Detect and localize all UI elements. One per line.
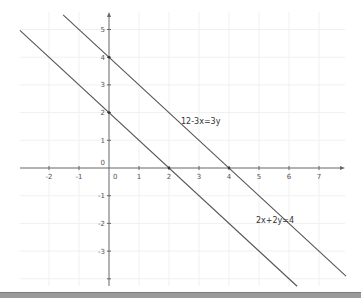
y-tick-label: 5 <box>101 26 105 34</box>
grid <box>20 12 345 286</box>
bottom-scrollbar <box>0 292 361 298</box>
y-tick-label: -3 <box>98 248 105 256</box>
x-tick-label: 0 <box>113 173 117 181</box>
x-tick-label: 6 <box>287 173 292 181</box>
graph-plot: -2-101234567543210-1-2-3 2x+2y=412-3x=3y <box>0 0 361 293</box>
y-tick-label: -2 <box>98 220 105 228</box>
x-tick-label: 1 <box>137 173 141 181</box>
y-tick-label: 3 <box>101 81 105 89</box>
series-label-1: 2x+2y=4 <box>256 216 294 225</box>
intercept-point <box>108 111 111 114</box>
x-axis-arrow-icon <box>340 166 345 170</box>
tick-marks: -2-101234567543210-1-2-3 <box>46 26 322 279</box>
y-tick-label: -1 <box>98 192 105 200</box>
labels: 2x+2y=412-3x=3y <box>181 117 294 226</box>
x-tick-label: 5 <box>257 173 261 181</box>
y-axis-arrow-icon <box>107 12 111 17</box>
y-tick-label: 0 <box>101 159 105 167</box>
intercept-point <box>168 167 171 170</box>
y-tick-label: 4 <box>101 54 106 62</box>
axes <box>20 12 345 286</box>
series-label-2: 12-3x=3y <box>181 117 221 126</box>
y-tick-label: 2 <box>101 109 105 117</box>
x-tick-label: 7 <box>317 173 321 181</box>
x-tick-label: 3 <box>197 173 201 181</box>
y-tick-label: 1 <box>101 137 105 145</box>
series-line-2 <box>63 15 346 276</box>
series-line-1 <box>20 30 297 286</box>
intercept-point <box>108 56 111 59</box>
intercept-point <box>228 167 231 170</box>
x-tick-label: 4 <box>227 173 232 181</box>
x-tick-label: -2 <box>46 173 53 181</box>
x-tick-label: -1 <box>76 173 83 181</box>
x-tick-label: 2 <box>167 173 171 181</box>
series-lines <box>20 15 346 286</box>
